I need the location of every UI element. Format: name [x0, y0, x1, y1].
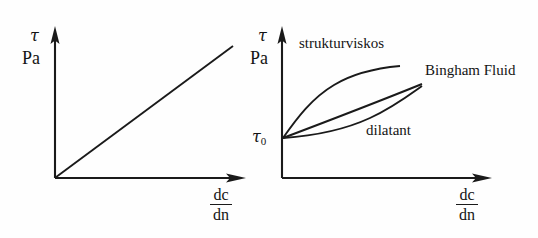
left-fraction-bar: [210, 204, 232, 205]
right-x-axis-numerator: dc: [456, 186, 478, 203]
yield-stress-symbol: τ: [252, 127, 261, 146]
left-x-axis-numerator: dc: [210, 186, 232, 203]
right-y-axis-unit: Pa: [250, 49, 268, 67]
left-y-axis-symbol: τ: [30, 28, 39, 44]
right-fraction-bar: [456, 204, 478, 205]
left-x-axis-denominator: dn: [210, 206, 232, 223]
yield-stress-subscript: 0: [261, 135, 267, 147]
right-x-axis-denominator: dn: [456, 206, 478, 223]
bingham-fluid-label: Bingham Fluid: [425, 63, 515, 78]
left-x-axis-label: dc dn: [210, 186, 232, 224]
right-y-axis-symbol: τ: [258, 28, 267, 44]
dilatant-label: dilatant: [366, 123, 411, 138]
strukturviskos-label: strukturviskos: [299, 36, 384, 51]
newtonian-panel: [51, 26, 247, 183]
newtonian-curve: [56, 46, 234, 178]
right-x-axis-label: dc dn: [456, 186, 478, 224]
left-y-axis-unit: Pa: [22, 49, 40, 67]
rheology-figure: τ Pa dc dn τ Pa τ0 strukturviskos Bingha…: [0, 0, 538, 238]
yield-stress-label: τ0: [252, 129, 266, 147]
